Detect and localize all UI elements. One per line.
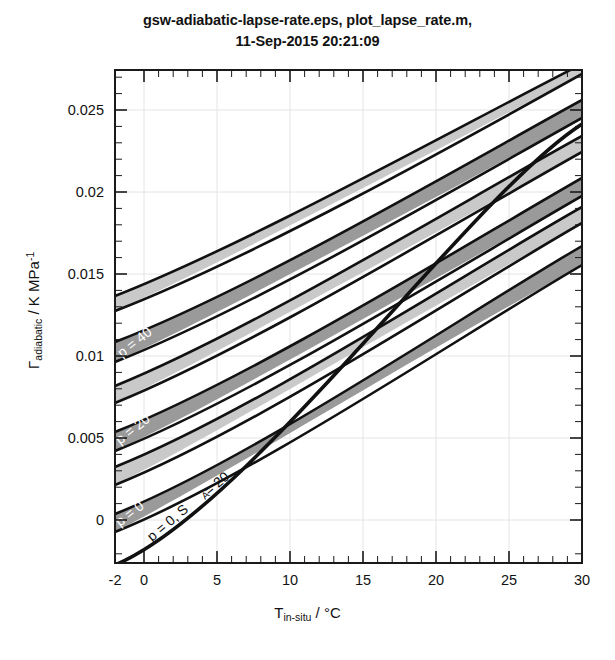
x-tick-label-m2: -2 xyxy=(109,572,122,588)
x-tick-label-15: 15 xyxy=(355,572,371,588)
y-axis-label-unit xyxy=(25,314,42,318)
y-axis-label: Γadiabatic / K MPa-1 xyxy=(24,180,45,440)
y-tick-label-001: 0.01 xyxy=(76,348,104,364)
x-tick-labels: -2 0 5 10 15 20 25 30 xyxy=(109,572,591,588)
x-tick-label-5: 5 xyxy=(213,572,221,588)
figure-container: gsw-adiabatic-lapse-rate.eps, plot_lapse… xyxy=(0,0,615,660)
y-axis-label-exponent: -1 xyxy=(24,252,36,261)
y-axis-label-unit-text: / K MPa xyxy=(25,261,42,314)
x-axis-label-subscript: in-situ xyxy=(283,611,311,623)
y-tick-label-0025: 0.025 xyxy=(68,102,104,118)
x-tick-label-30: 30 xyxy=(574,572,590,588)
y-axis-label-symbol: Γ xyxy=(25,361,42,369)
x-axis-label-unit: / °C xyxy=(316,604,341,621)
y-tick-labels: 0 0.005 0.01 0.015 0.02 0.025 xyxy=(68,102,104,528)
y-tick-label-0: 0 xyxy=(96,512,104,528)
x-tick-label-0: 0 xyxy=(140,572,148,588)
y-tick-label-0015: 0.015 xyxy=(68,266,104,282)
plot-canvas: p = 40 p = 20 p = 0 p = 0, S A = 20 xyxy=(0,0,615,660)
x-tick-label-20: 20 xyxy=(428,572,444,588)
y-axis-label-subscript: adiabatic xyxy=(32,319,44,361)
x-tick-label-10: 10 xyxy=(282,572,298,588)
y-tick-label-0005: 0.005 xyxy=(68,430,104,446)
x-tick-label-25: 25 xyxy=(501,572,517,588)
y-tick-label-002: 0.02 xyxy=(76,184,104,200)
x-axis-label: Tin-situ / °C xyxy=(0,604,615,623)
